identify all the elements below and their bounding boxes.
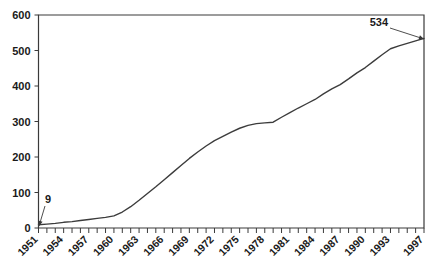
axis-frame — [39, 15, 425, 228]
x-axis-ticks — [39, 228, 425, 233]
chart-svg: 0100200300400500600 19511954195719601963… — [0, 0, 433, 274]
x-tick-label: 1954 — [40, 233, 65, 258]
y-tick-label: 300 — [12, 116, 30, 128]
y-tick-label: 500 — [12, 45, 30, 57]
y-tick-label: 400 — [12, 80, 30, 92]
y-tick-label: 200 — [12, 151, 30, 163]
x-tick-label: 1951 — [15, 233, 40, 258]
x-tick-label: 1972 — [191, 233, 216, 258]
x-tick-label: 1975 — [216, 233, 241, 258]
x-tick-label: 1997 — [400, 233, 425, 258]
annotation-label-9: 9 — [45, 193, 51, 205]
x-axis-tick-labels: 1951195419571960196319661969197219751978… — [15, 233, 426, 258]
x-tick-label: 1963 — [115, 233, 140, 258]
plot-frame — [39, 15, 425, 228]
x-tick-label: 1984 — [291, 233, 316, 258]
x-tick-label: 1960 — [90, 233, 115, 258]
annotation-label-534: 534 — [370, 16, 389, 28]
y-tick-label: 600 — [12, 9, 30, 21]
x-tick-label: 1966 — [141, 233, 166, 258]
line-chart: 0100200300400500600 19511954195719601963… — [0, 0, 433, 274]
y-tick-label: 0 — [24, 222, 30, 234]
x-tick-label: 1993 — [367, 233, 392, 258]
y-axis-tick-labels: 0100200300400500600 — [12, 9, 30, 234]
annotation-arrowhead-534 — [419, 35, 424, 39]
x-tick-label: 1957 — [65, 233, 90, 258]
x-tick-label: 1978 — [241, 233, 266, 258]
x-tick-label: 1987 — [317, 233, 342, 258]
x-tick-label: 1969 — [166, 233, 191, 258]
data-series-line — [39, 38, 425, 224]
x-tick-label: 1990 — [342, 233, 367, 258]
annotation-leader-534 — [390, 28, 424, 39]
x-tick-label: 1981 — [266, 233, 291, 258]
y-tick-label: 100 — [12, 187, 30, 199]
data-annotations: 9534 — [38, 16, 424, 226]
